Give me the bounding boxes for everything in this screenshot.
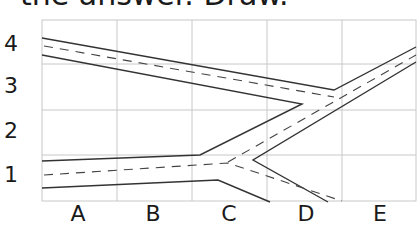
grid-lines xyxy=(42,20,416,201)
col-label-d: D xyxy=(298,203,315,225)
col-label-a: A xyxy=(70,203,85,225)
col-label-e: E xyxy=(373,203,387,225)
road-grid-map xyxy=(0,0,419,228)
row-label-4: 4 xyxy=(4,33,18,55)
col-label-c: C xyxy=(221,203,236,225)
row-label-3: 3 xyxy=(4,75,18,97)
row-label-2: 2 xyxy=(4,120,18,142)
road-centerlines xyxy=(44,46,416,201)
col-label-b: B xyxy=(145,203,160,225)
roads xyxy=(42,38,416,202)
row-label-1: 1 xyxy=(4,164,18,186)
